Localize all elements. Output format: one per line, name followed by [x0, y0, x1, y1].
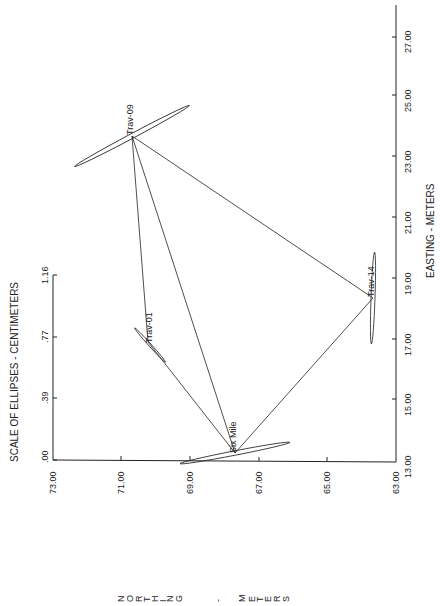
northing-tick-label: 67.00 [254, 471, 264, 494]
network-plot: .00 .39 .77 1.16 SCALE OF ELLIPSES - CEN… [0, 0, 440, 606]
easting-tick-label: 25.00 [403, 89, 413, 112]
axis-title-letter: M [237, 595, 247, 603]
line-sixmile-trav09 [132, 136, 235, 453]
easting-tick-label: 19.00 [403, 272, 413, 295]
axis-title-letter: S [281, 596, 291, 602]
axis-title-letter: G [174, 595, 184, 602]
northing-tick-label: 71.00 [116, 471, 126, 494]
northing-tick-label: 63.00 [391, 471, 401, 494]
station-label-trav-09: Trav-09 [125, 104, 135, 135]
easting-tick-label: 15.00 [403, 393, 413, 416]
scale-tick-label: .77 [40, 330, 50, 343]
scale-tick-label: .39 [40, 391, 50, 404]
northing-tick-label: 73.00 [48, 471, 58, 494]
scale-title: SCALE OF ELLIPSES - CENTIMETERS [9, 282, 20, 462]
ellipse-scale-bar: .00 .39 .77 1.16 SCALE OF ELLIPSES - CEN… [9, 266, 57, 463]
northing-tick-label: 69.00 [185, 471, 195, 494]
axes: 73.00 71.00 69.00 67.00 65.00 63.00 13.0… [48, 5, 436, 494]
station-label-six-mile: Six Mile [228, 421, 238, 453]
station-label-trav-01: Trav-01 [144, 312, 154, 343]
easting-axis-title: EASTING - METERS [425, 183, 436, 278]
scale-tick-label: 1.16 [40, 266, 50, 284]
network-lines [132, 136, 373, 453]
axis-title-letter: - [213, 599, 223, 602]
error-ellipses [73, 103, 376, 465]
northing-axis [53, 460, 396, 462]
easting-tick-label: 23.00 [403, 150, 413, 173]
line-trav09-trav14 [132, 136, 373, 298]
northing-tick-label: 65.00 [322, 471, 332, 494]
scale-tick-label: .00 [40, 450, 50, 463]
station-label-trav-14: Trav-14 [366, 266, 376, 297]
line-trav01-trav09 [132, 136, 148, 342]
easting-tick-label: 27.00 [403, 30, 413, 53]
easting-tick-label: 21.00 [403, 211, 413, 234]
easting-tick-label: 17.00 [403, 333, 413, 356]
line-sixmile-trav14 [235, 298, 373, 453]
northing-axis-title: N O R T H I N G - M E T E R S [116, 595, 291, 603]
easting-tick-label: 13.00 [403, 455, 413, 478]
